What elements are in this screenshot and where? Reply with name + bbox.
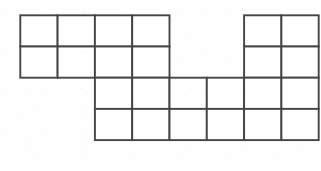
grid-figure (0, 0, 321, 171)
cell-c0-r1 (20, 47, 57, 78)
cell-c3-r0 (132, 15, 169, 46)
cell-c6-r3 (244, 109, 281, 140)
figure-canvas (0, 0, 321, 171)
cell-c2-r2 (95, 78, 132, 109)
cell-c3-r1 (132, 47, 169, 78)
cell-c1-r0 (58, 15, 95, 46)
cell-c7-r2 (281, 78, 318, 109)
cell-c4-r3 (170, 109, 207, 140)
cell-c5-r3 (207, 109, 244, 140)
grid-cells-layer (20, 15, 318, 140)
cell-c7-r0 (281, 15, 318, 46)
cell-c7-r1 (281, 47, 318, 78)
cell-c2-r1 (95, 47, 132, 78)
cell-c1-r1 (58, 47, 95, 78)
cell-c7-r3 (281, 109, 318, 140)
cell-c0-r0 (20, 15, 57, 46)
cell-c2-r3 (95, 109, 132, 140)
cell-c3-r2 (132, 78, 169, 109)
cell-c6-r2 (244, 78, 281, 109)
cell-c2-r0 (95, 15, 132, 46)
cell-c6-r1 (244, 47, 281, 78)
cell-c4-r2 (170, 78, 207, 109)
cell-c3-r3 (132, 109, 169, 140)
cell-c6-r0 (244, 15, 281, 46)
cell-c5-r2 (207, 78, 244, 109)
